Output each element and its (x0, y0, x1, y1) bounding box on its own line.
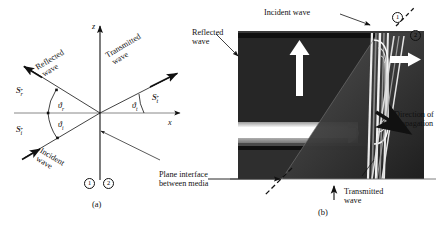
plane-interface-line1: Plane interface (159, 170, 208, 179)
reflection-angle-subscript: r (62, 106, 64, 112)
direction-line1: Direction of (394, 110, 434, 119)
arc-tick-mid (47, 112, 50, 115)
transmission-angle-label: ϑt (132, 101, 137, 112)
caption-b: (b) (318, 207, 328, 217)
arc-tick-top (55, 89, 58, 92)
interface-leader (101, 131, 160, 160)
reflected-wave-label-b: Reflected wave (192, 28, 250, 46)
reflected-wave-line2-b: wave (192, 37, 209, 46)
transmitted-poynting-symbol: → St (152, 92, 158, 104)
figure-reflection-transmission: z x Reflected wave Transmitted wave Inci… (0, 0, 444, 229)
caption-a: (a) (92, 199, 101, 209)
incidence-angle-label: ϑi (58, 120, 63, 131)
incident-wave-label-b: Incident wave (264, 8, 310, 17)
transmitted-wave-line2-b: wave (344, 196, 361, 205)
photo-image (238, 31, 424, 179)
panel-a-schematic: z x Reflected wave Transmitted wave Inci… (0, 0, 222, 229)
panel-b-photograph: Incident wave Reflected wave Direction o… (222, 0, 444, 229)
z-axis-label: z (92, 22, 95, 31)
vector-arrow-accent-r: → (16, 84, 23, 93)
vector-arrow-accent-t: → (152, 91, 159, 100)
medium-one-badge-a: 1 (84, 178, 95, 189)
incident-poynting-symbol: → Si (16, 124, 22, 136)
transmission-angle-arc (139, 94, 144, 113)
transmitted-wave-label-b: Transmitted wave (344, 187, 402, 205)
x-axis-label: x (168, 118, 172, 127)
plane-interface-line2: between media (159, 179, 208, 188)
vector-arrow-accent-i: → (16, 123, 23, 132)
incident-wave-leader-b (340, 14, 370, 25)
transmitted-wave-line1-b: Transmitted (344, 187, 383, 196)
transmitted-poynting-arrow (150, 74, 177, 88)
direction-of-propagation-label: Direction of propagation (394, 110, 444, 128)
transmission-angle-subscript: t (136, 106, 138, 112)
incidence-angle-subscript: i (62, 125, 64, 131)
direction-line2: propagation (394, 119, 433, 128)
incidence-angle-arc (48, 113, 57, 138)
medium-two-badge-b: 2 (410, 30, 421, 41)
arc-tick-bottom (56, 137, 59, 140)
panel-a-vectors (0, 0, 222, 229)
medium-two-badge-a: 2 (103, 178, 114, 189)
reflection-angle-label: ϑr (58, 101, 64, 112)
medium-one-badge-b: 1 (392, 12, 403, 23)
reflection-angle-arc (48, 90, 56, 113)
reflected-poynting-symbol: → Sr (16, 85, 23, 97)
reflected-wave-line1-b: Reflected (192, 28, 223, 37)
